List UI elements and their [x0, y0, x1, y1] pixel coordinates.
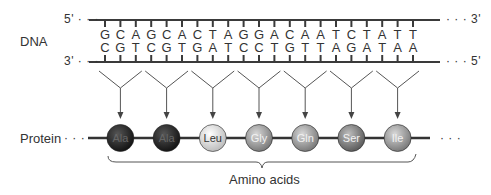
amino-acid-label: Gly [244, 132, 274, 144]
codon-arrow [376, 71, 419, 114]
arrowhead-icon [117, 112, 123, 119]
bottom-strand-3prime-end: 3' · · · [64, 54, 99, 68]
codon-arrows [99, 71, 419, 119]
amino-acid-label: Ala [105, 132, 135, 144]
amino-acid-label: Ile [383, 132, 413, 144]
amino-acid-label: Ser [336, 132, 366, 144]
ellipsis: · · · [78, 54, 99, 68]
bottom-base: T [221, 41, 235, 55]
codon-arrow [191, 71, 234, 114]
amino-acid-label: Gln [290, 132, 320, 144]
bottom-base: C [237, 41, 251, 55]
bottom-base: T [175, 41, 189, 55]
bottom-base: T [129, 41, 143, 55]
bottom-base: T [375, 41, 389, 55]
bottom-base: C [98, 41, 112, 55]
bottom-base: A [329, 41, 343, 55]
bottom-base: A [406, 41, 420, 55]
ellipsis: · · · [446, 12, 467, 26]
arrowhead-icon [210, 112, 216, 119]
five-prime-label: 5' [471, 54, 481, 68]
arrowhead-icon [256, 112, 262, 119]
bottom-base: G [344, 41, 358, 55]
bottom-base: A [391, 41, 405, 55]
bottom-base: G [283, 41, 297, 55]
amino-acids-brace [108, 154, 416, 168]
bottom-base: T [298, 41, 312, 55]
bottom-strand-5prime-end: · · · 5' [446, 54, 481, 68]
codon-arrow [145, 71, 188, 114]
bottom-base: C [252, 41, 266, 55]
codon-arrow [284, 71, 327, 114]
arrowhead-icon [302, 112, 308, 119]
codon-arrow [330, 71, 373, 114]
bottom-base: G [160, 41, 174, 55]
arrowhead-icon [164, 112, 170, 119]
top-strand-5prime-end: 5' · · · [64, 12, 99, 26]
arrowhead-icon [348, 112, 354, 119]
codon-arrow [99, 71, 142, 114]
amino-acid-label: Leu [198, 132, 228, 144]
top-strand-3prime-end: · · · 3' [446, 12, 481, 26]
ellipsis: · · · [78, 12, 99, 26]
bottom-base: G [113, 41, 127, 55]
three-prime-label: 3' [64, 54, 74, 68]
bottom-base: T [267, 41, 281, 55]
protein-right-ellipsis: · · · [440, 131, 461, 145]
bottom-base: T [314, 41, 328, 55]
amino-acids-label: Amino acids [229, 172, 300, 187]
ellipsis: · · · [446, 54, 467, 68]
bottom-base: C [144, 41, 158, 55]
arrowhead-icon [395, 112, 401, 119]
amino-acid-label: Ala [152, 132, 182, 144]
bottom-base: A [360, 41, 374, 55]
codon-arrow [238, 71, 281, 114]
protein-left-ellipsis: · · · [64, 131, 85, 145]
bottom-base: G [190, 41, 204, 55]
protein-label: Protein [20, 131, 61, 146]
five-prime-label: 5' [64, 12, 74, 26]
dna-label: DNA [20, 34, 47, 49]
bottom-base: A [206, 41, 220, 55]
three-prime-label: 3' [471, 12, 481, 26]
